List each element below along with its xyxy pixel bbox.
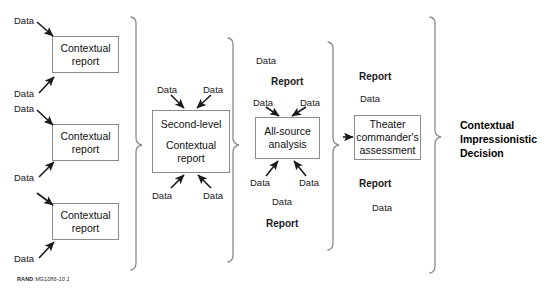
label-data-c2-top-left: Data [157, 84, 177, 95]
node-line-2: report [72, 222, 99, 235]
label-data-c4-bottom: Data [372, 202, 392, 213]
label-data-c3-in-left: Data [253, 97, 273, 108]
label-data-c3-bottom: Data [272, 196, 292, 207]
arrow-data-to-second-level-right [197, 95, 211, 108]
node-line-2: report [72, 55, 99, 68]
node-line-3: report [177, 152, 204, 165]
label-data-c3-top: Data [256, 55, 276, 66]
arrow-data-to-contextual-report-2-lower [39, 162, 54, 177]
label-data-c3-in-right: Data [300, 97, 320, 108]
node-line-2: Contextual [166, 139, 216, 152]
node-contextual-report-3: Contextual report [52, 203, 119, 240]
label-data-c1-1: Data [14, 15, 34, 26]
bracket-3 [328, 42, 339, 250]
label-data-c2-bottom-right: Data [203, 190, 223, 201]
node-line-1: Contextual [60, 209, 110, 222]
credit-identifier: MG1086-10.1 [35, 276, 70, 282]
node-line-2: report [72, 143, 99, 156]
arrow-data-to-contextual-report-1-lower [39, 77, 54, 93]
node-line-1: Theater [369, 118, 405, 131]
label-data-c1-3: Data [14, 103, 34, 114]
final-output-line-1: Contextual [460, 119, 514, 133]
node-second-level-contextual-report: Second-level Contextual report [152, 110, 230, 173]
label-data-c2-top-right: Data [203, 84, 223, 95]
node-contextual-report-1: Contextual report [52, 36, 119, 73]
final-output-line-2: Impressionistic [460, 133, 537, 147]
diagram-canvas: Contextual report Contextual report Cont… [0, 0, 544, 291]
label-report-c4-bottom: Report [359, 178, 391, 189]
node-line-2: analysis [269, 138, 307, 151]
final-output-line-3: Decision [460, 147, 504, 161]
node-line-1: Second-level [161, 118, 222, 131]
arrow-data-to-second-level-left [171, 95, 184, 108]
bracket-1 [131, 17, 142, 270]
credit-publisher: RAND [17, 276, 33, 282]
label-data-c1-2: Data [14, 88, 34, 99]
arrow-data-to-contextual-report-3-lower [39, 242, 54, 258]
label-data-c1-4: Data [14, 172, 34, 183]
arrow-data-to-all-source-left [266, 107, 279, 116]
node-contextual-report-2: Contextual report [52, 124, 119, 161]
label-data-c3-out-right: Data [299, 177, 319, 188]
label-data-c4-top: Data [360, 93, 380, 104]
node-line-1: Contextual [60, 42, 110, 55]
label-report-c4-top: Report [359, 71, 391, 82]
node-line-1: All-source [264, 125, 311, 138]
label-data-c2-bottom-left: Data [152, 190, 172, 201]
bracket-4 [430, 17, 441, 273]
label-report-c3-bottom: Report [266, 218, 298, 229]
figure-credit: RAND MG1086-10.1 [17, 275, 70, 283]
arrow-data-to-contextual-report-2 [37, 110, 53, 125]
label-report-c3-top: Report [271, 76, 303, 87]
node-line-3: assessment [359, 144, 415, 157]
arrow-data-to-contextual-report-1 [37, 22, 53, 36]
node-theater-commanders-assessment: Theater commander's assessment [354, 115, 421, 160]
arrow-data-to-all-source-bottom-left [266, 161, 278, 176]
arrow-data-to-contextual-report-3 [37, 193, 53, 205]
label-data-c1-5: Data [14, 253, 34, 264]
arrow-data-to-second-level-bottom-left [171, 175, 184, 188]
arrow-data-to-second-level-bottom-right [198, 175, 211, 188]
arrow-data-to-all-source-bottom-right [294, 161, 306, 176]
label-data-c3-out-left: Data [250, 177, 270, 188]
node-line-1: Contextual [60, 130, 110, 143]
node-line-2: commander's [356, 131, 419, 144]
arrow-data-to-all-source-right [292, 107, 306, 116]
node-all-source-analysis: All-source analysis [255, 117, 320, 159]
